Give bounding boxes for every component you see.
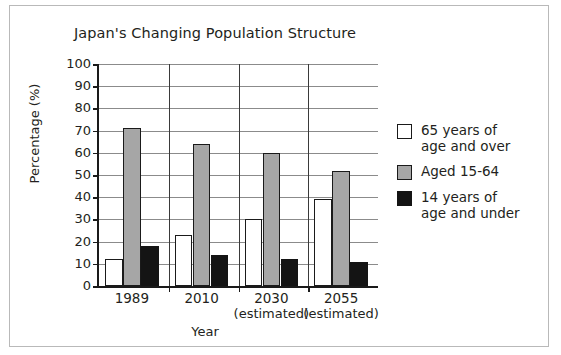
y-tick-mark xyxy=(93,108,99,110)
x-tick-estimated-note: (estimated) xyxy=(298,306,384,321)
bar-2030-series2 xyxy=(263,153,281,286)
figure-frame: Japan's Changing Population Structure Pe… xyxy=(9,5,549,347)
chart-legend: 65 years ofage and overAged 15-6414 year… xyxy=(397,122,557,230)
y-tick-mark xyxy=(93,86,99,88)
legend-item-1: 65 years ofage and over xyxy=(397,122,557,154)
bar-2030-series1 xyxy=(245,219,263,286)
legend-item-3: 14 years ofage and under xyxy=(397,189,557,221)
legend-swatch-black xyxy=(397,191,412,206)
bar-1989-series3 xyxy=(141,246,159,286)
y-tick-mark xyxy=(93,197,99,199)
legend-label: Aged 15-64 xyxy=(421,163,499,179)
y-tick-mark xyxy=(93,219,99,221)
y-tick-label: 70 xyxy=(61,126,91,136)
plot-area: 1009080706050403020100 xyxy=(97,64,378,288)
legend-swatch-white xyxy=(397,124,412,139)
x-tick-label-2055: 2055(estimated) xyxy=(298,291,384,321)
chart-title: Japan's Changing Population Structure xyxy=(50,25,380,41)
y-tick-label: 60 xyxy=(61,148,91,158)
y-tick-label: 0 xyxy=(61,281,91,291)
y-tick-label: 80 xyxy=(61,103,91,113)
y-tick-label: 10 xyxy=(61,259,91,269)
y-tick-label: 100 xyxy=(61,59,91,69)
legend-label-line1: Aged 15-64 xyxy=(421,163,499,179)
y-tick-mark xyxy=(93,175,99,177)
y-axis-title: Percentage (%) xyxy=(27,74,42,194)
y-tick-mark xyxy=(93,153,99,155)
bar-2055-series2 xyxy=(332,171,350,286)
group-separator xyxy=(239,64,240,286)
legend-swatch-gray xyxy=(397,165,412,180)
y-tick-label: 30 xyxy=(61,214,91,224)
bar-2030-series3 xyxy=(281,259,299,286)
chart-figure: Japan's Changing Population Structure Pe… xyxy=(0,0,561,355)
legend-item-2: Aged 15-64 xyxy=(397,163,557,180)
bar-2010-series2 xyxy=(193,144,211,286)
bar-2010-series3 xyxy=(211,255,229,286)
x-tick-year: 2055 xyxy=(298,291,384,306)
y-tick-mark xyxy=(93,131,99,133)
legend-label-line2: age and over xyxy=(421,138,510,154)
y-tick-mark xyxy=(93,242,99,244)
bar-1989-series2 xyxy=(123,128,141,286)
legend-label-line1: 65 years of xyxy=(421,122,510,138)
y-tick-label: 90 xyxy=(61,81,91,91)
x-axis-title: Year xyxy=(160,324,250,339)
group-separator xyxy=(308,64,309,286)
y-tick-mark xyxy=(93,264,99,266)
bar-2055-series1 xyxy=(314,199,332,286)
bar-2055-series3 xyxy=(350,262,368,286)
y-tick-label: 40 xyxy=(61,192,91,202)
legend-label-line1: 14 years of xyxy=(421,189,520,205)
y-tick-label: 20 xyxy=(61,237,91,247)
legend-label: 65 years ofage and over xyxy=(421,122,510,154)
legend-label-line2: age and under xyxy=(421,205,520,221)
y-tick-label: 50 xyxy=(61,170,91,180)
y-tick-mark xyxy=(93,286,99,288)
bar-1989-series1 xyxy=(105,259,123,286)
bar-2010-series1 xyxy=(175,235,193,286)
legend-label: 14 years ofage and under xyxy=(421,189,520,221)
group-separator xyxy=(169,64,170,286)
y-tick-mark xyxy=(93,64,99,66)
